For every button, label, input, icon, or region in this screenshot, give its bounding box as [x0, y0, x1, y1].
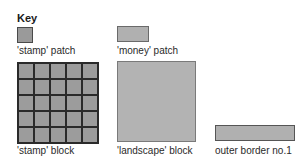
stamp-cell	[50, 111, 66, 127]
stamp-cell	[18, 63, 34, 79]
stamp-cell	[34, 95, 50, 111]
stamp-cell	[50, 63, 66, 79]
stamp-cell	[34, 111, 50, 127]
stamp-cell	[82, 111, 98, 127]
stamp-cell	[50, 79, 66, 95]
stamp-cell	[66, 111, 82, 127]
stamp-cell	[82, 127, 98, 143]
landscape-block-swatch	[117, 61, 196, 142]
stamp-patch-swatch	[17, 27, 33, 43]
stamp-cell	[18, 127, 34, 143]
stamp-cell	[34, 79, 50, 95]
stamp-cell	[50, 127, 66, 143]
stamp-cell	[66, 95, 82, 111]
stamp-cell	[82, 63, 98, 79]
stamp-cell	[82, 95, 98, 111]
outer-border-swatch	[215, 125, 295, 141]
stamp-cell	[18, 79, 34, 95]
stamp-cell	[66, 63, 82, 79]
stamp-cell	[50, 95, 66, 111]
stamp-patch-label: 'stamp' patch	[17, 45, 75, 57]
stamp-cell	[18, 95, 34, 111]
stamp-cell	[34, 127, 50, 143]
stamp-cell	[82, 79, 98, 95]
money-patch-swatch	[117, 26, 149, 42]
money-patch-label: 'money' patch	[117, 45, 178, 57]
outer-border-label: outer border no.1	[215, 145, 292, 157]
stamp-cell	[34, 63, 50, 79]
stamp-cell	[66, 79, 82, 95]
landscape-block-label: 'landscape' block	[117, 145, 193, 157]
stamp-block-label: 'stamp' block	[17, 145, 74, 157]
stamp-block-grid	[17, 62, 99, 144]
stamp-cell	[66, 127, 82, 143]
stamp-cell	[18, 111, 34, 127]
key-title: Key	[17, 12, 37, 24]
